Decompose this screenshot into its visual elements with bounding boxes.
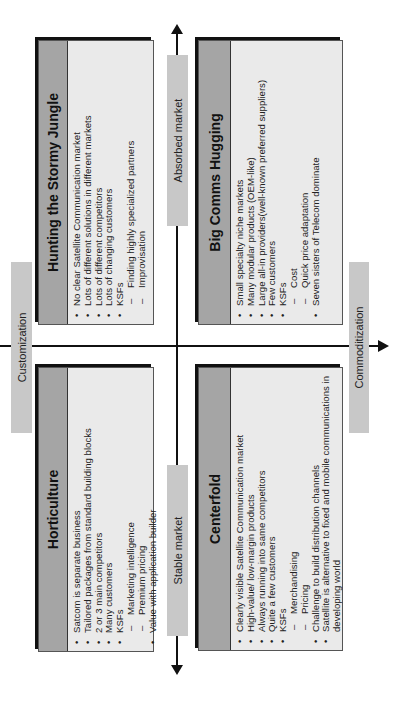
list-item: Satellite is alternative to fixed and mo… [321, 374, 343, 644]
quadrant-list: Small specialty niche markets Many modul… [235, 47, 321, 318]
quadrant-list: No clear Satellite Communication market … [72, 47, 148, 318]
sub-list-item: Improvisation [137, 47, 148, 318]
list-item: Value with application builder [148, 374, 159, 645]
list-item: Lots of different solutions in different… [83, 47, 94, 318]
quadrant-centerfold: Centerfold Clearly visible Satellite Com… [198, 367, 343, 651]
quadrant-title: Big Comms Hugging [199, 41, 231, 324]
list-item: Many customers [104, 374, 115, 645]
arrow-down-icon [378, 340, 389, 352]
list-item: Tailored packages from standard building… [83, 374, 94, 645]
list-item: Many modular products (OEM-like) [246, 47, 257, 318]
quadrant-horticulture: Horticulture Satcom is separate business… [38, 367, 154, 652]
quadrant-title: Centerfold [199, 368, 231, 650]
list-item: Lots of changing customers [104, 47, 115, 318]
quadrant-big-comms-hugging: Big Comms Hugging Small specialty niche … [198, 40, 343, 325]
list-item: High-value/ low-margin products [246, 374, 257, 644]
sub-list-item: Pricing [300, 374, 311, 644]
quadrant-hunting-the-stormy-jungle: Hunting the Stormy Jungle No clear Satel… [38, 40, 154, 325]
axis-label-commoditization: Commoditization [349, 262, 369, 433]
axis-label-stable-market: Stable market [167, 465, 188, 636]
vertical-axis-line [0, 346, 380, 348]
arrow-right-icon [171, 24, 183, 34]
quadrant-title: Horticulture [39, 368, 68, 651]
axis-label-customization: Customization [11, 262, 32, 433]
positioning-matrix: Stable market Absorbed market Customizat… [0, 0, 397, 705]
axis-label-absorbed-market: Absorbed market [167, 55, 188, 226]
arrow-left-icon [171, 665, 183, 675]
quadrant-title: Hunting the Stormy Jungle [39, 41, 68, 324]
list-item: Few customers [267, 47, 278, 318]
list-item: Seven sisters of Telecom dominate [311, 47, 322, 318]
list-item: Quite a few customers [267, 374, 278, 644]
quadrant-list: Clearly visible Satellite Communication … [235, 374, 343, 644]
sub-list-item: Premium pricing [137, 374, 148, 645]
sub-list-item: Quick price adaptation [300, 47, 311, 318]
quadrant-list: Satcom is separate business Tailored pac… [72, 374, 158, 645]
